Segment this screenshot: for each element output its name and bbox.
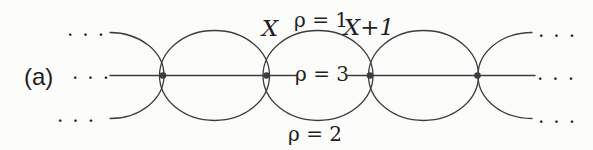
bubble-chain-diagram: (a) X X+1 ρ = 1 ρ = 3 ρ = 2 ... ... ... … <box>0 0 593 150</box>
panel-label: (a) <box>24 63 53 90</box>
vertex-dot-4 <box>474 72 481 79</box>
ellipsis-right-top: ... <box>538 18 584 42</box>
site-label-x-plus-1: X+1 <box>342 14 394 40</box>
site-label-x: X <box>260 15 280 41</box>
vertex-dot-3 <box>367 72 374 79</box>
ellipsis-left-top: ... <box>67 17 113 41</box>
vertex-dot-1 <box>160 72 167 79</box>
ellipsis-left-middle: ... <box>72 60 118 84</box>
vertex-dot-2 <box>263 72 270 79</box>
ellipsis-right-middle: ... <box>537 61 583 85</box>
ellipsis-left-bottom: ... <box>57 103 103 127</box>
rho-3-label: ρ = 3 <box>295 62 349 86</box>
ellipsis-right-bottom: ... <box>538 104 584 128</box>
rho-1-label: ρ = 1 <box>294 8 348 32</box>
rho-2-label: ρ = 2 <box>288 122 342 146</box>
figure-panel: (a) X X+1 ρ = 1 ρ = 3 ρ = 2 ... ... ... … <box>0 0 593 150</box>
